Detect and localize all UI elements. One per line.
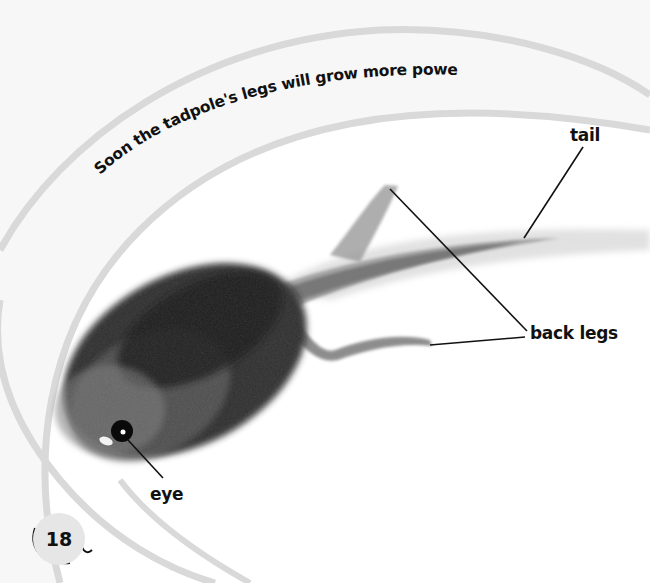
label-eye: eye: [150, 484, 183, 504]
page-number-text: 18: [46, 528, 72, 550]
svg-text:Soon the tadpole's legs will g: Soon the tadpole's legs will grow more p…: [0, 0, 458, 178]
caption-layer: Soon the tadpole's legs will grow more p…: [0, 0, 650, 583]
page-caption: Soon the tadpole's legs will grow more p…: [0, 0, 458, 178]
book-page: Soon the tadpole's legs will grow more p…: [0, 0, 650, 583]
label-back-legs: back legs: [530, 323, 618, 343]
label-tail: tail: [570, 125, 600, 145]
page-number: 18: [33, 513, 85, 565]
